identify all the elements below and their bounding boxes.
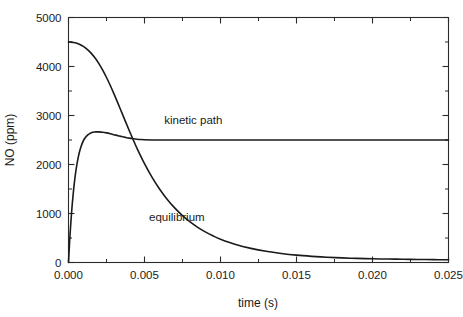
x-tick-label: 0.000 [54, 269, 83, 281]
x-tick-label: 0.005 [130, 269, 159, 281]
y-tick-label: 2000 [36, 159, 62, 171]
curve-label-equilibrium: equilibrium [149, 211, 205, 223]
series-annotations: kinetic pathequilibrium [149, 114, 222, 223]
x-tick-label: 0.015 [282, 269, 311, 281]
x-tick-label: 0.025 [434, 269, 463, 281]
y-axis-tick-labels: 010002000300040005000 [36, 12, 62, 269]
y-tick-label: 4000 [36, 61, 62, 73]
y-axis-title: NO (ppm) [3, 114, 17, 167]
y-tick-label: 1000 [36, 208, 62, 220]
data-curve-kinetic-path [69, 132, 449, 263]
y-tick-label: 5000 [36, 12, 62, 24]
x-axis-tick-labels: 0.0000.0050.0100.0150.0200.025 [54, 269, 463, 281]
y-tick-label: 3000 [36, 110, 62, 122]
y-tick-label: 0 [55, 257, 61, 269]
data-curve-equilibrium [69, 42, 449, 260]
chart-figure: 0.0000.0050.0100.0150.0200.025 010002000… [0, 0, 463, 317]
x-tick-label: 0.010 [206, 269, 235, 281]
curve-label-kinetic-path: kinetic path [164, 114, 222, 126]
x-axis-title: time (s) [238, 296, 278, 310]
chart-plot: 0.0000.0050.0100.0150.0200.025 010002000… [0, 0, 463, 317]
data-series-group [69, 42, 449, 263]
x-tick-label: 0.020 [358, 269, 387, 281]
